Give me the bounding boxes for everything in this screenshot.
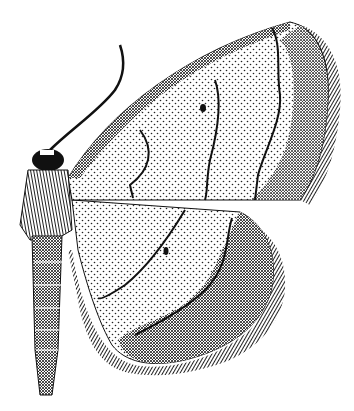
head-collar [40, 150, 54, 155]
discal-spot-forewing [200, 104, 206, 112]
discal-spot-hindwing [164, 247, 169, 255]
moth-illustration [0, 0, 354, 411]
thorax [20, 170, 72, 240]
abdomen [32, 236, 62, 395]
moth-drawing [0, 0, 354, 411]
